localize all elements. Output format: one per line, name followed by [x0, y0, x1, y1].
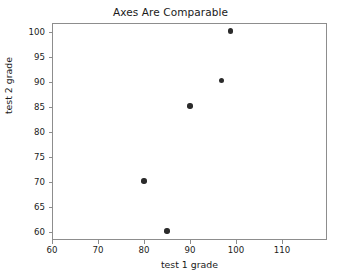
x-axis-label: test 1 grade [52, 259, 327, 270]
x-tick-mark [52, 240, 53, 244]
data-point [219, 78, 224, 83]
y-tick-label: 85 [34, 102, 45, 112]
plot-area [52, 23, 327, 240]
y-tick-label: 80 [34, 127, 45, 137]
x-tick-label: 90 [184, 245, 195, 255]
y-tick-label: 95 [34, 52, 45, 62]
x-tick-mark [98, 240, 99, 244]
y-tick-mark [49, 32, 53, 33]
y-tick-label: 75 [34, 152, 45, 162]
x-tick-mark [236, 240, 237, 244]
y-tick-label: 60 [34, 227, 45, 237]
scatter-plot-figure: Axes Are Comparable 60708090100110 60657… [0, 0, 341, 280]
x-tick-mark [282, 240, 283, 244]
y-tick-mark [49, 132, 53, 133]
y-tick-label: 65 [34, 202, 45, 212]
y-tick-label: 90 [34, 77, 45, 87]
data-point [141, 178, 146, 183]
y-tick-mark [49, 82, 53, 83]
data-point [187, 103, 192, 108]
y-tick-mark [49, 107, 53, 108]
x-tick-label: 60 [47, 245, 58, 255]
x-tick-label: 100 [228, 245, 244, 255]
x-tick-mark [190, 240, 191, 244]
x-tick-label: 80 [139, 245, 150, 255]
data-point [228, 28, 233, 33]
y-tick-mark [49, 232, 53, 233]
x-tick-label: 110 [274, 245, 290, 255]
y-tick-label: 100 [29, 27, 45, 37]
x-tick-label: 70 [93, 245, 104, 255]
data-point [164, 228, 169, 233]
y-tick-mark [49, 207, 53, 208]
y-tick-label: 70 [34, 177, 45, 187]
x-tick-mark [144, 240, 145, 244]
y-tick-mark [49, 157, 53, 158]
chart-title: Axes Are Comparable [0, 6, 341, 18]
y-tick-mark [49, 182, 53, 183]
y-axis-label: test 2 grade [3, 31, 14, 141]
y-tick-mark [49, 57, 53, 58]
